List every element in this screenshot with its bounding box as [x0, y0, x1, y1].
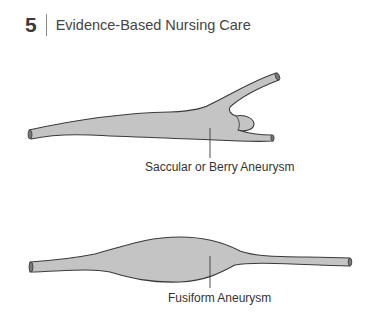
- fusiform-aneurysm-label: Fusiform Aneurysm: [168, 291, 271, 305]
- aneurysm-figure: [0, 0, 385, 316]
- fusiform-aneurysm-diagram: [29, 237, 352, 288]
- saccular-aneurysm-label: Saccular or Berry Aneurysm: [145, 160, 294, 174]
- saccular-aneurysm-diagram: [28, 72, 281, 158]
